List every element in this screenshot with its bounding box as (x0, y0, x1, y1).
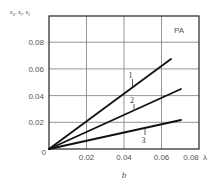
y-axis-label: εv, εr, εt (10, 9, 31, 17)
origin-label: 0 (42, 148, 47, 157)
grid (49, 16, 199, 149)
curve-label-3: 3 (142, 136, 146, 145)
curve-label-1: 1 (129, 71, 133, 80)
chart-canvas: 1 2 3 PA 0.08 0.06 0.04 0.02 0 0.02 0.04… (0, 0, 214, 185)
figure-caption: b (122, 170, 127, 180)
y-tick-0.04: 0.04 (28, 92, 44, 101)
y-tick-0.02: 0.02 (28, 118, 44, 127)
x-tick-0.08: 0.08 (183, 153, 199, 162)
x-axis-label: λ (203, 153, 207, 162)
svg-text:εv, εr, εt: εv, εr, εt (10, 9, 31, 17)
panel-label: PA (174, 26, 185, 35)
x-tick-0.02: 0.02 (79, 153, 95, 162)
y-tick-0.06: 0.06 (28, 65, 44, 74)
y-tick-0.08: 0.08 (28, 38, 44, 47)
x-tick-0.06: 0.06 (154, 153, 170, 162)
x-tick-0.04: 0.04 (116, 153, 132, 162)
curve-label-2: 2 (130, 96, 134, 105)
